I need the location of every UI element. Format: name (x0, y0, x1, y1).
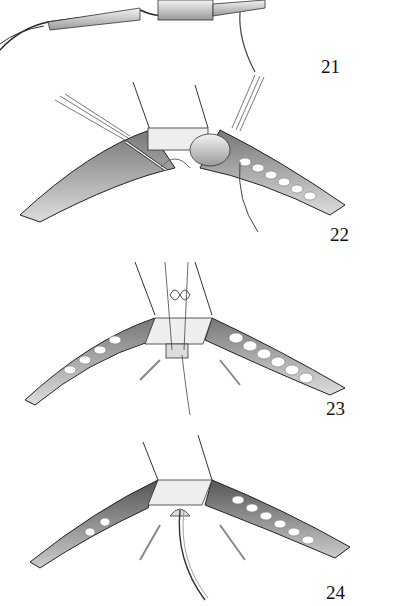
panel-24: 24 (0, 420, 393, 606)
figure-number-22: 22 (330, 224, 349, 246)
panel-23: 23 (0, 260, 393, 420)
figure-number-23: 23 (326, 398, 345, 420)
figure-number-21: 21 (321, 56, 340, 78)
illustration-device-and-incision (0, 0, 393, 260)
figure-number-24: 24 (326, 582, 345, 604)
illustration-patch-catheter (0, 420, 393, 606)
panel-21-22: 21 22 (0, 0, 393, 260)
illustration-patch-suture (0, 260, 393, 420)
